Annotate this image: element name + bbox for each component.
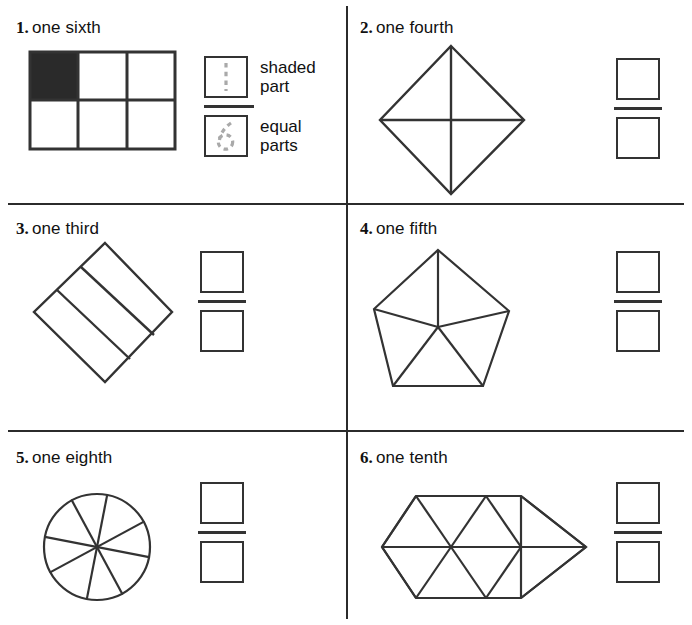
problem-label-1: 1.one sixth [16,18,101,38]
answer-numerator-box-3[interactable] [200,251,244,293]
problem-number-4: 4. [360,219,376,238]
problem-label-3: 3.one third [16,219,99,239]
problem-word-4: one fifth [376,219,437,238]
answer-denominator-box-4[interactable] [616,310,660,352]
problem-label-6: 6.one tenth [360,448,448,468]
answer-fraction-2[interactable] [616,58,664,159]
legend-denominator-label: equal parts [260,117,302,155]
figure-pentagon-five-sectors [370,246,520,394]
problem-label-4: 4.one fifth [360,219,437,239]
legend-numerator-row: shaded part [204,56,316,98]
answer-denominator-box-3[interactable] [200,310,244,352]
answer-numerator-box-5[interactable] [200,482,244,524]
answer-fraction-bar-6 [614,531,662,534]
dashed-six-numeral-icon [212,119,240,153]
problem-number-5: 5. [16,448,32,467]
problem-cell-1: 1.one sixth shaded part [0,0,346,203]
problem-word-6: one tenth [376,448,448,467]
legend-denominator-box [204,115,248,157]
legend-numerator-box [204,56,248,98]
problem-cell-4: 4.one fifth [346,203,692,430]
shaded-cell [30,52,78,100]
problem-number-6: 6. [360,448,376,467]
answer-fraction-4[interactable] [616,251,664,352]
problem-number-2: 2. [360,18,376,37]
answer-denominator-box-5[interactable] [200,541,244,583]
answer-fraction-bar-4 [614,300,662,303]
figure-diamond-quartered [376,42,528,198]
problem-label-5: 5.one eighth [16,448,112,468]
answer-fraction-bar-5 [198,531,246,534]
answer-numerator-box-4[interactable] [616,251,660,293]
problem-label-2: 2.one fourth [360,18,454,38]
figure-hexagon-ten-triangles [378,492,590,602]
problem-number-3: 3. [16,219,32,238]
dashed-one-numeral-icon [213,60,239,94]
problem-cell-2: 2.one fourth [346,0,692,203]
problem-cell-5: 5.one eighth [0,430,346,625]
answer-fraction-6[interactable] [616,482,664,583]
legend-numerator-label: shaded part [260,58,316,96]
answer-fraction-bar-2 [614,107,662,110]
answer-numerator-box-2[interactable] [616,58,660,100]
problem-cell-6: 6.one tenth [346,430,692,625]
figure-circle-eight-sectors [40,490,154,604]
problem-word-2: one fourth [376,18,454,37]
problem-word-1: one sixth [32,18,101,37]
answer-numerator-box-6[interactable] [616,482,660,524]
problem-number-1: 1. [16,18,32,37]
legend-fraction-bar [204,105,254,108]
answer-fraction-3[interactable] [200,251,248,352]
figure-diamond-three-strips [26,239,182,389]
answer-fraction-5[interactable] [200,482,248,583]
figure-rectangle-3x2-grid [28,50,180,154]
legend-key: shaded part equal parts [204,56,316,157]
problem-word-3: one third [32,219,99,238]
problem-cell-3: 3.one third [0,203,346,430]
problem-word-5: one eighth [32,448,112,467]
worksheet-page: 1.one sixth shaded part [0,0,692,625]
answer-fraction-bar-3 [198,300,246,303]
answer-denominator-box-6[interactable] [616,541,660,583]
legend-denominator-row: equal parts [204,115,316,157]
answer-denominator-box-2[interactable] [616,117,660,159]
